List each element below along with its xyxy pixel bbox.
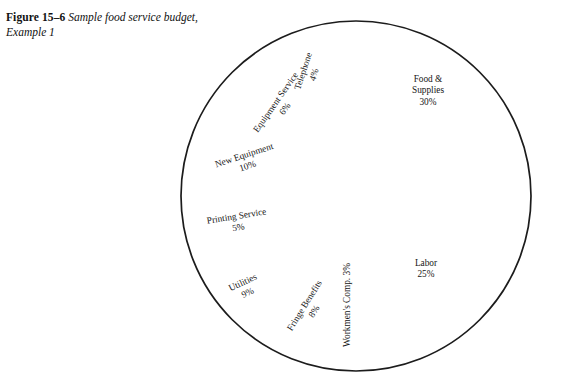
pie-chart: Food &Supplies30%Labor25%Workmen's Comp.…: [0, 0, 564, 375]
slice-label-percent: 30%: [419, 97, 436, 107]
slice-label-percent: 5%: [231, 221, 245, 233]
slice-label-name: Labor: [415, 258, 438, 268]
slice-label-name: Supplies: [412, 85, 444, 95]
pie-outline-circle: [181, 21, 531, 371]
slice-label-name: Workmen's Comp. 3%: [342, 263, 352, 347]
pie-chart-svg: Food &Supplies30%Labor25%Workmen's Comp.…: [0, 0, 564, 375]
slice-label: Workmen's Comp. 3%: [342, 263, 352, 347]
slice-label-name: Food &: [414, 74, 443, 84]
slice-label-percent: 25%: [417, 269, 434, 279]
